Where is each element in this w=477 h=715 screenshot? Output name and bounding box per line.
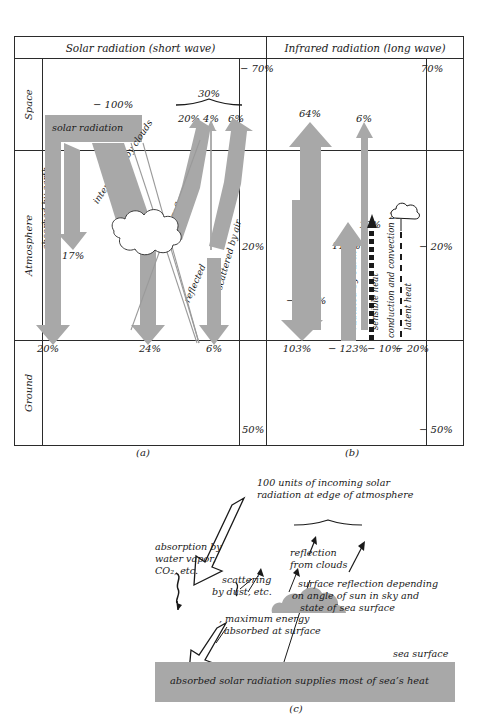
squiggle-absorption [176, 573, 182, 610]
incoming-solar-text-line2: radiation at edge of atmosphere [257, 489, 413, 501]
scattering-line2: by dust, etc. [212, 586, 272, 598]
surface-reflection-line1: surface reflection depending [298, 578, 438, 590]
reflection-line1: reflection [290, 547, 337, 559]
absorption-line3: CO₂, etc. [155, 565, 198, 577]
panel-c-artwork [0, 0, 477, 715]
absorption-line1: absorption by [155, 541, 222, 553]
figure-root: Solar radiation (short wave) Infrared ra… [0, 0, 477, 715]
arrow-surface-reflection [349, 545, 363, 572]
surface-reflection-line3: state of sea surface [300, 602, 395, 614]
surface-reflection-line2: on angle of sun in sky and [292, 590, 419, 602]
absorption-line2: water vapor, [155, 553, 216, 565]
reflection-line2: from clouds [290, 559, 348, 571]
brace-clouds [294, 520, 362, 525]
max-energy-line1: , maximum energy [219, 613, 310, 625]
max-energy-line2: absorbed at surface [224, 625, 321, 637]
sea-band-label: absorbed solar radiation supplies most o… [170, 675, 429, 686]
pointer-reflection-clouds [289, 572, 297, 592]
caption-c: (c) [289, 703, 302, 714]
sea-surface-label: sea surface [393, 648, 448, 660]
incoming-solar-text-line1: 100 units of incoming solar [257, 477, 390, 489]
scattering-line1: scattering [222, 574, 271, 586]
